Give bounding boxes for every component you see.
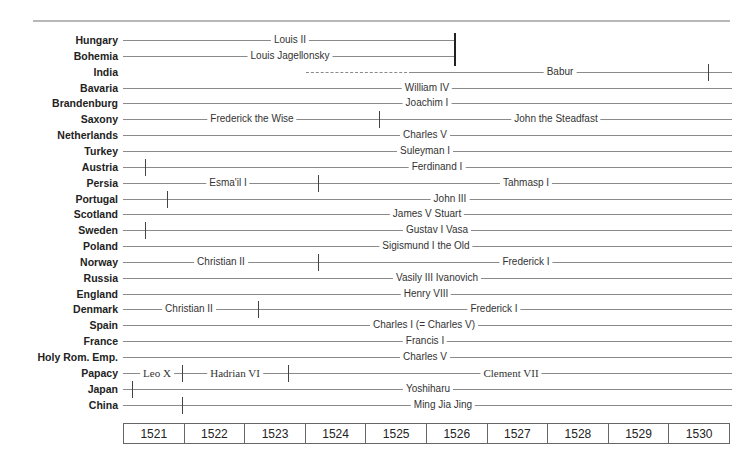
ruler-name: Ming Jia Jing (411, 397, 475, 413)
ruler-name: Sigismund I the Old (379, 238, 472, 254)
country-label: Scotland (74, 206, 118, 222)
succession-tick (182, 365, 183, 382)
ruler-name: Charles I (= Charles V) (370, 317, 478, 333)
country-label: Papacy (81, 365, 118, 381)
ruler-name: William IV (402, 80, 452, 96)
country-label: England (77, 286, 118, 302)
year-cell: 1524 (306, 424, 367, 443)
year-cell: 1530 (669, 424, 729, 443)
timeline-row: ChinaMing Jia Jing (0, 397, 742, 413)
year-cell: 1527 (488, 424, 549, 443)
ruler-name: Joachim I (403, 95, 452, 111)
timeline-row: SaxonyFrederick the WiseJohn the Steadfa… (0, 111, 742, 127)
ruler-name: Louis Jagellonsky (248, 48, 333, 64)
country-label: Turkey (84, 143, 118, 159)
timeline-row: NetherlandsCharles V (0, 127, 742, 143)
ruler-name: Louis II (271, 32, 309, 48)
ruler-name: James V Stuart (390, 206, 464, 222)
country-label: Denmark (73, 301, 118, 317)
ruler-name: Frederick I (499, 254, 552, 270)
ruler-name: Charles V (400, 127, 450, 143)
country-label: Saxony (81, 111, 118, 127)
timeline-row: NorwayChristian IIFrederick I (0, 254, 742, 270)
timeline-row: IndiaBabur (0, 64, 742, 80)
ruler-name: Tahmasp I (500, 175, 552, 191)
country-label: Bavaria (80, 80, 118, 96)
year-cell: 1522 (185, 424, 246, 443)
hungary-bohemia-end-marker (454, 33, 456, 66)
ruler-name: Christian II (162, 301, 216, 317)
country-label: Brandenburg (52, 95, 118, 111)
timeline-row: PortugalJohn III (0, 191, 742, 207)
timeline-row: PolandSigismund I the Old (0, 238, 742, 254)
succession-tick (318, 254, 319, 271)
ruler-name: Ferdinand I (409, 159, 466, 175)
year-axis: 1521152215231524152515261527152815291530 (123, 423, 730, 444)
succession-tick (318, 175, 319, 192)
country-label: Norway (80, 254, 118, 270)
top-rule (33, 20, 730, 22)
ruler-name: John III (431, 191, 470, 207)
timeline-row: JapanYoshiharu (0, 381, 742, 397)
country-label: Austria (82, 159, 118, 175)
year-cell: 1525 (366, 424, 427, 443)
year-cell: 1523 (245, 424, 306, 443)
timeline-row: BrandenburgJoachim I (0, 95, 742, 111)
succession-tick (145, 222, 146, 239)
ruler-name: Yoshiharu (403, 381, 453, 397)
timeline-row: PersiaEsma'il ITahmasp I (0, 175, 742, 191)
country-label: Persia (86, 175, 118, 191)
ruler-name: Leo X (140, 365, 174, 381)
ruler-name: Vasily III Ivanovich (393, 270, 481, 286)
timeline-row: BavariaWilliam IV (0, 80, 742, 96)
country-label: Netherlands (57, 127, 118, 143)
timeline-row: Holy Rom. Emp.Charles V (0, 349, 742, 365)
timeline-row: AustriaFerdinand I (0, 159, 742, 175)
country-label: Bohemia (74, 48, 118, 64)
succession-tick (145, 159, 146, 176)
year-cell: 1521 (124, 424, 185, 443)
ruler-name: Gustav I Vasa (403, 222, 471, 238)
country-label: Russia (84, 270, 118, 286)
ruler-name: Esma'il I (206, 175, 249, 191)
ruler-name: John the Steadfast (511, 111, 600, 127)
year-cell: 1529 (609, 424, 670, 443)
timeline-row: BohemiaLouis Jagellonsky (0, 48, 742, 64)
ruler-name: Christian II (194, 254, 248, 270)
succession-tick (379, 111, 380, 128)
succession-tick (708, 64, 709, 81)
timeline-row: ScotlandJames V Stuart (0, 206, 742, 222)
timeline-row: HungaryLouis II (0, 32, 742, 48)
timeline-row: SwedenGustav I Vasa (0, 222, 742, 238)
succession-tick (258, 301, 259, 318)
country-label: China (89, 397, 118, 413)
uncertain-reign-line (306, 72, 412, 73)
timeline-row: SpainCharles I (= Charles V) (0, 317, 742, 333)
timeline-row: EnglandHenry VIII (0, 286, 742, 302)
timeline-row: DenmarkChristian IIFrederick I (0, 301, 742, 317)
country-label: Hungary (75, 32, 118, 48)
ruler-name: Frederick the Wise (207, 111, 296, 127)
timeline-row: RussiaVasily III Ivanovich (0, 270, 742, 286)
country-label: Spain (89, 317, 118, 333)
succession-tick (132, 381, 133, 398)
year-cell: 1528 (548, 424, 609, 443)
country-label: Portugal (75, 191, 118, 207)
ruler-name: Henry VIII (401, 286, 451, 302)
ruler-name: Suleyman I (397, 143, 453, 159)
ruler-name: Clement VII (480, 365, 541, 381)
country-label: Poland (83, 238, 118, 254)
ruler-name: Francis I (403, 333, 447, 349)
reign-line (123, 199, 732, 200)
succession-tick (288, 365, 289, 382)
country-label: Holy Rom. Emp. (37, 349, 118, 365)
ruler-name: Babur (544, 64, 577, 80)
year-cell: 1526 (427, 424, 488, 443)
country-label: France (84, 333, 118, 349)
country-label: Sweden (78, 222, 118, 238)
timeline-row: TurkeySuleyman I (0, 143, 742, 159)
ruler-name: Frederick I (467, 301, 520, 317)
timeline-row: PapacyLeo XHadrian VIClement VII (0, 365, 742, 381)
timeline-row: FranceFrancis I (0, 333, 742, 349)
country-label: Japan (88, 381, 118, 397)
